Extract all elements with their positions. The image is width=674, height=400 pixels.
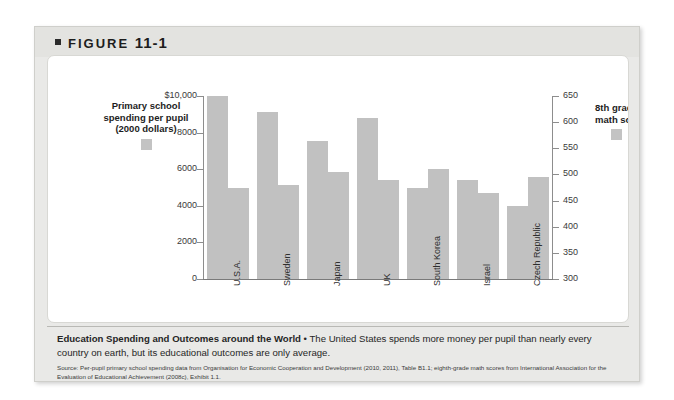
x-axis-category-label: South Korea bbox=[432, 236, 442, 286]
bar-spending bbox=[307, 141, 328, 279]
x-axis-category-label: UK bbox=[382, 273, 392, 286]
figure-caption: Education Spending and Outcomes around t… bbox=[57, 332, 619, 359]
y-axis-right-tick bbox=[553, 96, 559, 97]
figure-number: 11-1 bbox=[135, 34, 168, 51]
bar-spending bbox=[507, 206, 528, 279]
figure-label: FIGURE bbox=[68, 36, 129, 51]
bar-spending bbox=[357, 118, 378, 279]
y-axis-right-tick bbox=[553, 227, 559, 228]
caption-divider bbox=[47, 326, 629, 327]
bar-spending bbox=[457, 180, 478, 279]
y-axis-right-tick bbox=[553, 253, 559, 254]
y-axis-left-tick-label: 2000 bbox=[177, 236, 197, 246]
y-axis-right-tick-label: 500 bbox=[563, 168, 578, 178]
figure-source: Source: Per-pupil primary school spendin… bbox=[57, 364, 625, 381]
y-axis-left-tick-label: 8000 bbox=[177, 127, 197, 137]
x-axis-category-label: Czech Republic bbox=[532, 223, 542, 286]
y-axis-left-tick bbox=[197, 242, 203, 243]
figure-container: FIGURE 11-1 Primary school spending per … bbox=[34, 26, 640, 382]
y-axis-right-tick bbox=[553, 148, 559, 149]
y-axis-right-tick bbox=[553, 201, 559, 202]
y-axis-right-tick bbox=[553, 122, 559, 123]
caption-lead: Education Spending and Outcomes around t… bbox=[57, 333, 301, 344]
y-axis-left-tick bbox=[197, 169, 203, 170]
y-axis-right-tick-label: 650 bbox=[563, 90, 578, 100]
bar-spending bbox=[407, 188, 428, 279]
y-axis-left-tick bbox=[197, 206, 203, 207]
y-axis-left-tick bbox=[197, 133, 203, 134]
x-axis-category-label: Israel bbox=[482, 264, 492, 286]
bar-spending bbox=[207, 96, 228, 279]
y-axis-left-tick bbox=[197, 279, 203, 280]
y-axis-left-tick-label: 4000 bbox=[177, 200, 197, 210]
x-axis-category-label: Japan bbox=[332, 261, 342, 286]
y-axis-left-tick bbox=[197, 96, 203, 97]
x-axis-category-label: Sweden bbox=[282, 253, 292, 286]
legend-spending-swatch bbox=[141, 139, 152, 150]
legend-scores-swatch bbox=[611, 129, 622, 140]
figure-header: FIGURE 11-1 bbox=[35, 27, 639, 57]
y-axis-right-tick-label: 300 bbox=[563, 273, 578, 283]
bar-math-score bbox=[378, 180, 399, 279]
y-axis-right-tick-label: 350 bbox=[563, 247, 578, 257]
x-axis bbox=[203, 279, 553, 280]
plot-area: 02000400060008000$10,0003003504004505005… bbox=[203, 96, 553, 280]
y-axis-left-tick-label: 6000 bbox=[177, 163, 197, 173]
y-axis-left bbox=[203, 96, 204, 280]
bar-spending bbox=[257, 112, 278, 279]
y-axis-right-tick bbox=[553, 174, 559, 175]
y-axis-right-tick-label: 550 bbox=[563, 142, 578, 152]
y-axis-left-tick-label: $10,000 bbox=[164, 90, 197, 100]
figure-title: FIGURE 11-1 bbox=[68, 34, 168, 51]
y-axis-right-tick-label: 400 bbox=[563, 221, 578, 231]
y-axis-right-tick-label: 450 bbox=[563, 195, 578, 205]
square-bullet-icon bbox=[55, 39, 61, 45]
y-axis-right-tick bbox=[553, 279, 559, 280]
legend-scores-label: 8th grade math scores bbox=[595, 102, 629, 125]
legend-spending: Primary school spending per pupil (2000 … bbox=[86, 100, 206, 150]
y-axis-left-tick-label: 0 bbox=[192, 273, 197, 283]
y-axis-right-tick-label: 600 bbox=[563, 116, 578, 126]
x-axis-category-label: U.S.A. bbox=[232, 260, 242, 286]
chart-card: Primary school spending per pupil (2000 … bbox=[47, 55, 629, 323]
legend-scores: 8th grade math scores bbox=[595, 102, 629, 140]
